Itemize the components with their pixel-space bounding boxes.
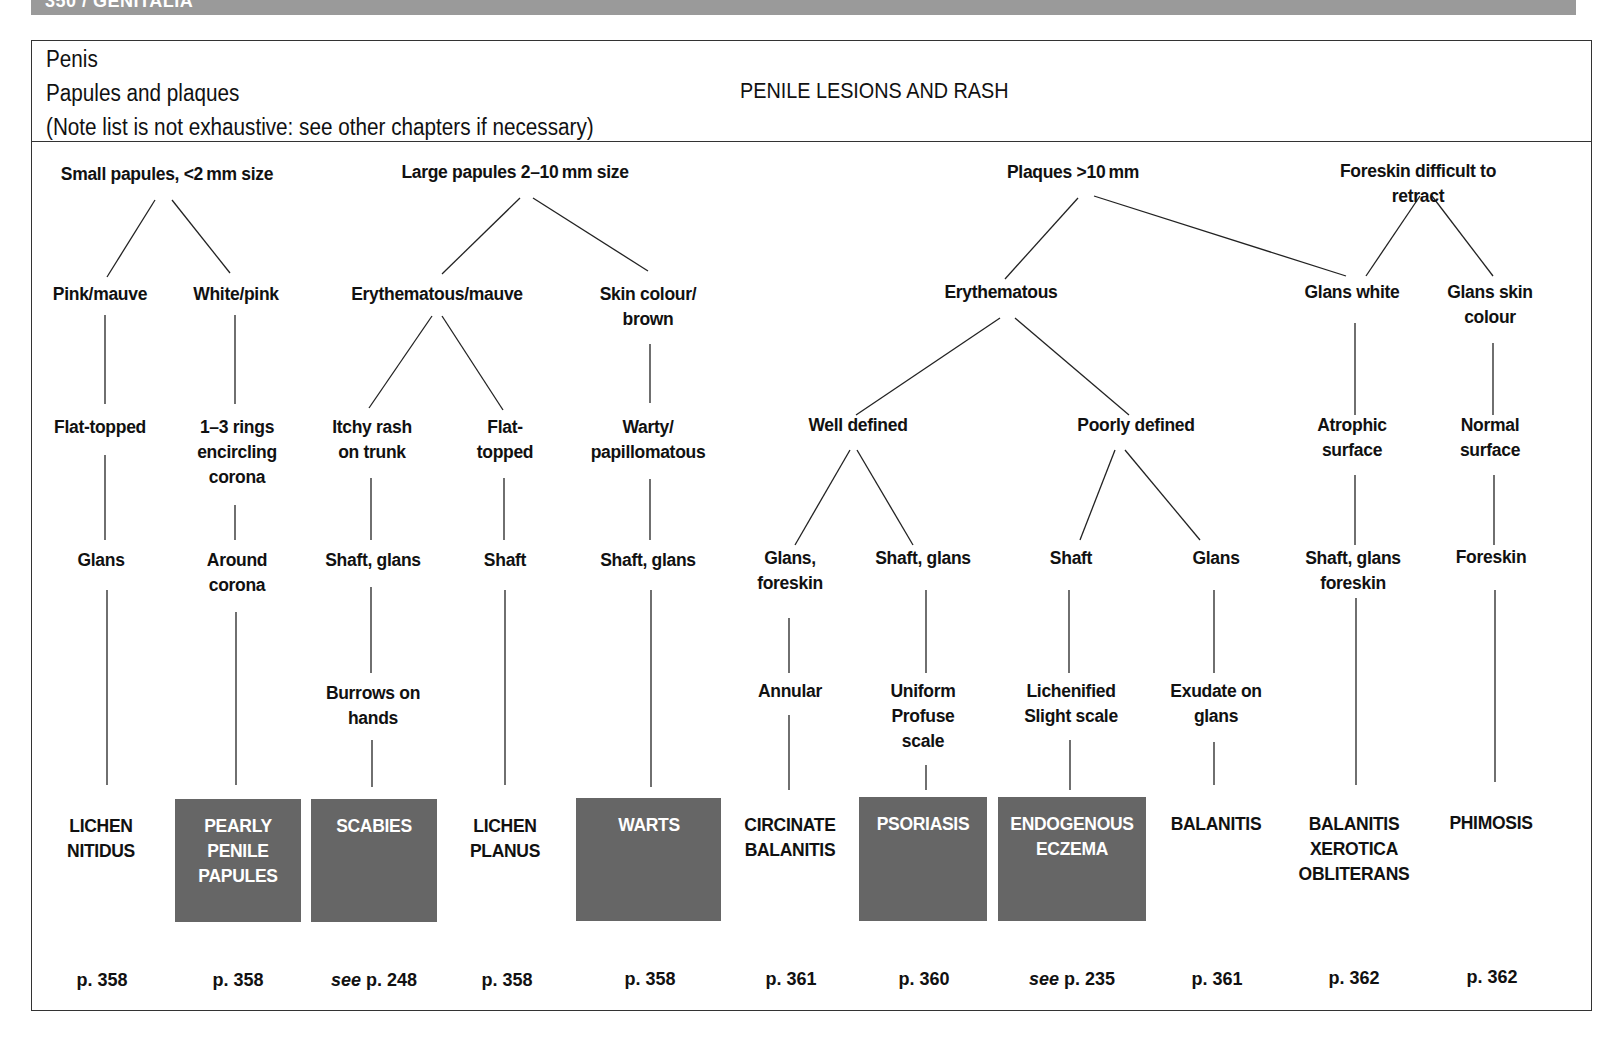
diagnosis-phimosis: PHIMOSIS (1449, 811, 1532, 836)
node-pink-mauve: Pink/mauve (53, 282, 147, 307)
node-warty-papillomatous: Warty/ papillomatous (591, 415, 706, 465)
node-well-defined: Well defined (808, 413, 907, 438)
category-large-papules: Large papules 2–10 mm size (401, 160, 628, 185)
node-site-around-corona: Around corona (207, 548, 267, 598)
page-ref-circinate-balanitis[interactable]: p. 361 (765, 969, 816, 990)
node-flat-topped-1: Flat-topped (54, 415, 146, 440)
node-site-glans-2: Glans (1192, 546, 1239, 571)
node-erythematous-mauve: Erythematous/mauve (351, 282, 523, 307)
page-ref-lichen-nitidus[interactable]: p. 358 (76, 970, 127, 991)
page-ref-lichen-planus[interactable]: p. 358 (481, 970, 532, 991)
diagnosis-circinate-balanitis: CIRCINATE BALANITIS (744, 813, 835, 863)
node-erythematous: Erythematous (944, 280, 1057, 305)
node-glans-white: Glans white (1305, 280, 1400, 305)
node-atrophic-surface: Atrophic surface (1317, 413, 1387, 463)
node-skin-colour-brown: Skin colour/ brown (600, 282, 697, 332)
diagnosis-balanitis: BALANITIS (1171, 812, 1262, 837)
category-plaques: Plaques >10 mm (1007, 160, 1139, 185)
node-burrows-on-hands: Burrows on hands (326, 681, 420, 731)
node-poorly-defined: Poorly defined (1077, 413, 1194, 438)
diagnosis-endogenous-eczema: ENDOGENOUS ECZEMA (1010, 812, 1133, 862)
page-ref-scabies[interactable]: see p. 248 (331, 970, 417, 991)
category-small-papules: Small papules, <2 mm size (61, 162, 273, 187)
diagnosis-lichen-planus: LICHEN PLANUS (470, 814, 540, 864)
diagnosis-warts: WARTS (618, 813, 680, 838)
node-site-foreskin: Foreskin (1456, 545, 1527, 570)
node-glans-skin-colour: Glans skin colour (1447, 280, 1533, 330)
category-foreskin-difficult: Foreskin difficult to retract (1326, 159, 1510, 209)
node-site-shaft-glans-1: Shaft, glans (325, 548, 421, 573)
page-ref-phimosis[interactable]: p. 362 (1466, 967, 1517, 988)
node-site-shaft-glans-foreskin: Shaft, glans foreskin (1305, 546, 1401, 596)
page-ref-endogenous-eczema[interactable]: see p. 235 (1029, 969, 1115, 990)
diagnosis-psoriasis: PSORIASIS (877, 812, 970, 837)
page-ref-psoriasis[interactable]: p. 360 (898, 969, 949, 990)
node-rings-encircling-corona: 1–3 rings encircling corona (197, 415, 277, 490)
node-site-shaft-2: Shaft (1050, 546, 1092, 571)
node-itchy-rash: Itchy rash on trunk (332, 415, 412, 465)
node-lichenified-slight-scale: Lichenified Slight scale (1024, 679, 1118, 729)
page-ref-balanitis-xerotica-obliterans[interactable]: p. 362 (1328, 968, 1379, 989)
page-ref-balanitis[interactable]: p. 361 (1191, 969, 1242, 990)
node-site-shaft-glans-2: Shaft, glans (600, 548, 696, 573)
diagnosis-scabies: SCABIES (336, 814, 412, 839)
page-ref-warts[interactable]: p. 358 (624, 969, 675, 990)
diagnosis-balanitis-xerotica-obliterans: BALANITIS XEROTICA OBLITERANS (1299, 812, 1410, 887)
node-uniform-profuse-scale: Uniform Profuse scale (891, 679, 956, 754)
diagnosis-pearly-penile-papules: PEARLY PENILE PAPULES (198, 814, 277, 889)
node-white-pink: White/pink (193, 282, 278, 307)
page-ref-pearly-penile-papules[interactable]: p. 358 (212, 970, 263, 991)
node-site-glans-1: Glans (77, 548, 124, 573)
node-site-shaft-1: Shaft (484, 548, 526, 573)
node-exudate-on-glans: Exudate on glans (1170, 679, 1261, 729)
node-normal-surface: Normal surface (1460, 413, 1520, 463)
node-flat-topped-2: Flat- topped (477, 415, 534, 465)
diagnosis-lichen-nitidus: LICHEN NITIDUS (67, 814, 135, 864)
node-site-glans-foreskin: Glans, foreskin (757, 546, 823, 596)
node-annular: Annular (758, 679, 822, 704)
node-site-shaft-glans-3: Shaft, glans (875, 546, 971, 571)
